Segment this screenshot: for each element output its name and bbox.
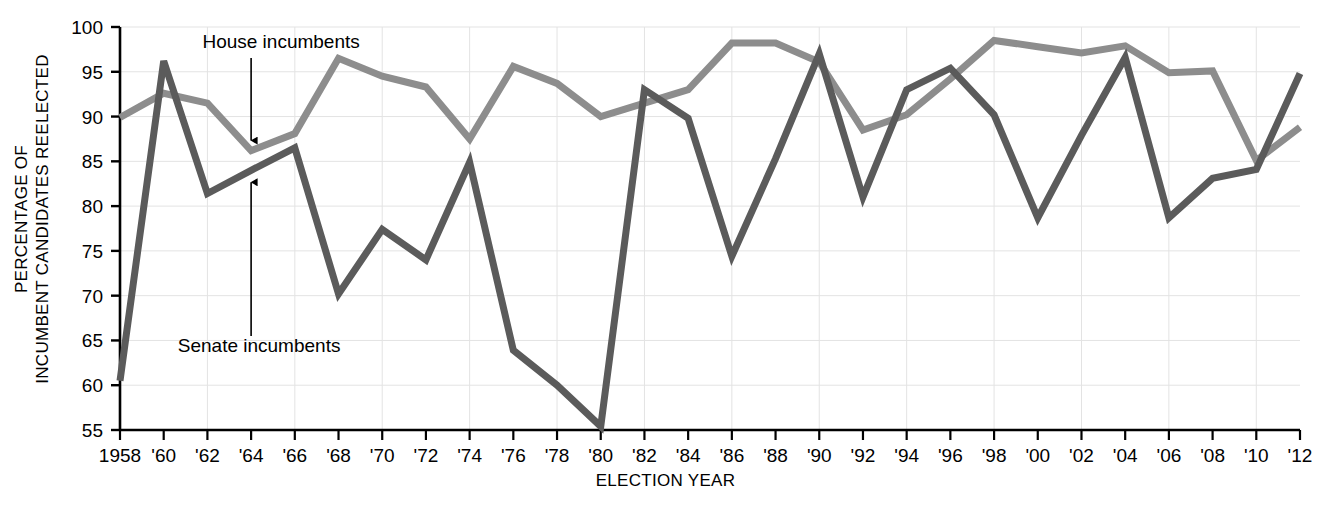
y-tick-label: 60 bbox=[82, 375, 103, 396]
x-axis-ticks-group: 1958'60'62'64'66'68'70'72'74'76'78'80'82… bbox=[99, 430, 1313, 466]
x-tick-label: '62 bbox=[195, 445, 220, 466]
data-series-group bbox=[120, 40, 1300, 426]
x-tick-label: '08 bbox=[1200, 445, 1225, 466]
y-axis-ticks-group: 556065707580859095100 bbox=[71, 17, 120, 441]
x-tick-label: '00 bbox=[1025, 445, 1050, 466]
y-tick-label: 85 bbox=[82, 151, 103, 172]
x-tick-label: '70 bbox=[370, 445, 395, 466]
y-tick-label: 55 bbox=[82, 420, 103, 441]
y-tick-label: 65 bbox=[82, 330, 103, 351]
x-tick-label: '06 bbox=[1157, 445, 1182, 466]
x-tick-label: '90 bbox=[807, 445, 832, 466]
annotation-label-senate-incumbents: Senate incumbents bbox=[178, 335, 341, 356]
x-tick-label: '78 bbox=[545, 445, 570, 466]
x-tick-label: '12 bbox=[1288, 445, 1313, 466]
y-tick-label: 95 bbox=[82, 62, 103, 83]
x-tick-label: '82 bbox=[632, 445, 657, 466]
x-tick-label: '84 bbox=[676, 445, 701, 466]
x-tick-label: '68 bbox=[326, 445, 351, 466]
x-tick-label: '96 bbox=[938, 445, 963, 466]
x-tick-label: '88 bbox=[763, 445, 788, 466]
x-axis-title: ELECTION YEAR bbox=[0, 471, 1331, 491]
line-chart-plot: 556065707580859095100 1958'60'62'64'66'6… bbox=[0, 0, 1331, 514]
x-tick-label: '66 bbox=[282, 445, 307, 466]
x-tick-label: '94 bbox=[894, 445, 919, 466]
y-tick-label: 100 bbox=[71, 17, 103, 38]
x-tick-label: '10 bbox=[1244, 445, 1269, 466]
x-tick-label: '80 bbox=[588, 445, 613, 466]
y-tick-label: 90 bbox=[82, 107, 103, 128]
x-tick-label: '02 bbox=[1069, 445, 1094, 466]
x-tick-label: 1958 bbox=[99, 445, 141, 466]
gridlines-group bbox=[120, 27, 1300, 430]
y-tick-label: 75 bbox=[82, 241, 103, 262]
x-tick-label: '76 bbox=[501, 445, 526, 466]
series-line-senate-incumbents bbox=[120, 54, 1300, 427]
x-tick-label: '60 bbox=[151, 445, 176, 466]
x-tick-label: '74 bbox=[457, 445, 482, 466]
x-tick-label: '86 bbox=[719, 445, 744, 466]
x-tick-label: '04 bbox=[1113, 445, 1138, 466]
x-tick-label: '92 bbox=[851, 445, 876, 466]
x-tick-label: '98 bbox=[982, 445, 1007, 466]
x-tick-label: '72 bbox=[414, 445, 439, 466]
y-tick-label: 80 bbox=[82, 196, 103, 217]
annotation-label-house-incumbents: House incumbents bbox=[202, 31, 359, 52]
y-tick-label: 70 bbox=[82, 286, 103, 307]
x-tick-label: '64 bbox=[239, 445, 264, 466]
chart-figure: PERCENTAGE OFINCUMBENT CANDIDATES REELEC… bbox=[0, 0, 1331, 514]
